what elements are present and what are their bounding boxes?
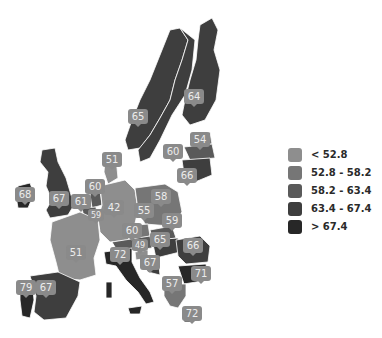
country-sicily[interactable] [128,306,142,314]
marker-latvia[interactable]: 60 [163,144,183,161]
legend-swatch [288,220,302,234]
country-sardinia[interactable] [106,282,112,298]
legend-label: 63.4 - 67.4 [311,203,371,214]
legend-label: 52.8 - 58.2 [311,167,371,178]
legend-swatch [288,202,302,216]
legend-label: 58.2 - 63.4 [311,185,371,196]
marker-france[interactable]: 51 [66,245,86,262]
marker-slovenia[interactable]: 49 [132,239,148,253]
marker-sweden[interactable]: 65 [128,109,148,126]
marker-spain[interactable]: 67 [36,280,56,297]
marker-poland[interactable]: 58 [151,189,171,206]
marker-estonia[interactable]: 54 [190,132,210,149]
marker-hungary[interactable]: 65 [150,232,170,249]
marker-lithuania[interactable]: 66 [177,168,197,185]
marker-greece[interactable]: 57 [162,276,182,293]
marker-luxembourg[interactable]: 59 [88,209,104,223]
legend-item-52-8-58-2[interactable]: 52.8 - 58.2 [288,164,371,181]
legend-item-lt-52-8[interactable]: < 52.8 [288,146,371,163]
marker-denmark[interactable]: 51 [102,152,122,169]
marker-ireland[interactable]: 68 [15,187,35,204]
map-legend: < 52.8 52.8 - 58.2 58.2 - 63.4 63.4 - 67… [288,146,371,236]
marker-uk[interactable]: 67 [49,191,69,208]
legend-item-gt-67-4[interactable]: > 67.4 [288,218,371,235]
legend-swatch [288,166,302,180]
marker-germany[interactable]: 42 [104,200,124,217]
legend-item-63-4-67-4[interactable]: 63.4 - 67.4 [288,200,371,217]
marker-portugal[interactable]: 79 [16,280,36,297]
marker-romania[interactable]: 66 [183,238,203,255]
marker-bulgaria[interactable]: 71 [191,266,211,283]
legend-item-58-2-63-4[interactable]: 58.2 - 63.4 [288,182,371,199]
marker-austria[interactable]: 60 [122,223,142,240]
legend-swatch [288,148,302,162]
marker-netherlands[interactable]: 60 [85,179,105,196]
marker-finland[interactable]: 64 [184,89,204,106]
marker-czech-republic[interactable]: 55 [134,203,154,220]
marker-croatia[interactable]: 67 [140,255,160,272]
legend-label: > 67.4 [311,221,348,232]
marker-cyprus[interactable]: 72 [182,306,202,323]
legend-swatch [288,184,302,198]
legend-label: < 52.8 [311,149,348,160]
marker-italy[interactable]: 72 [110,247,130,264]
marker-slovakia[interactable]: 59 [162,213,182,230]
